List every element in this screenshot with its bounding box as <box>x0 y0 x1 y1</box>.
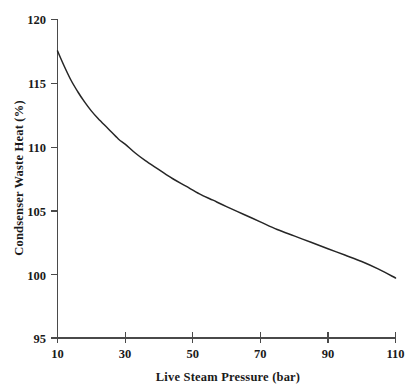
y-tick-label-95: 95 <box>34 332 47 346</box>
x-tick-label-50: 50 <box>186 347 199 361</box>
data-series-line <box>58 51 396 278</box>
x-tick-label-110: 110 <box>386 347 404 361</box>
x-tick-labels: 10 30 50 70 90 110 <box>51 347 404 361</box>
y-tick-label-110: 110 <box>28 141 46 155</box>
y-tick-label-105: 105 <box>27 205 46 219</box>
y-axis-title: Condsenser Waste Heat (%) <box>12 100 26 256</box>
x-tick-label-10: 10 <box>51 347 64 361</box>
chart-figure: 120 115 110 105 100 95 10 30 50 70 90 11… <box>0 0 417 391</box>
x-tick-label-90: 90 <box>322 347 335 361</box>
y-tick-labels: 120 115 110 105 100 95 <box>27 13 46 346</box>
line-chart-svg: 120 115 110 105 100 95 10 30 50 70 90 11… <box>0 0 417 391</box>
y-tick-label-115: 115 <box>28 77 46 91</box>
x-tick-label-30: 30 <box>119 347 132 361</box>
y-tick-label-100: 100 <box>27 269 46 283</box>
x-tick-label-70: 70 <box>254 347 267 361</box>
x-axis-title: Live Steam Pressure (bar) <box>156 370 300 384</box>
y-tick-label-120: 120 <box>27 13 46 27</box>
